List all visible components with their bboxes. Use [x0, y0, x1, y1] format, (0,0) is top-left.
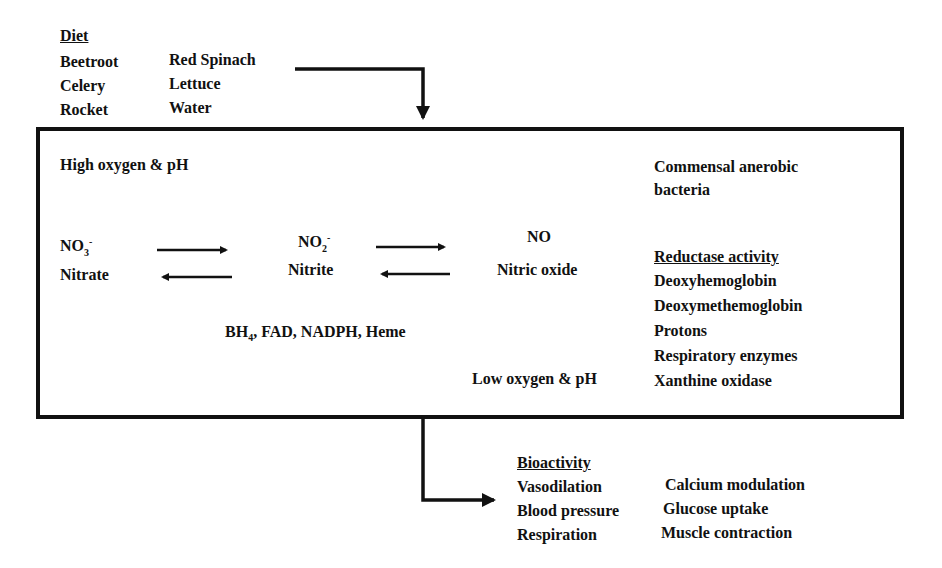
diet-arrow — [295, 69, 423, 118]
nitrate-formula: NO3- — [60, 237, 92, 258]
no-formula: NO — [527, 229, 551, 245]
reductase-item: Deoxymethemoglobin — [654, 298, 802, 314]
bioactivity-heading: Bioactivity — [517, 455, 591, 471]
bioactivity-item: Respiration — [517, 527, 597, 543]
diet-item: Red Spinach — [169, 52, 256, 68]
bacteria-label-line2: bacteria — [654, 182, 710, 198]
diet-item: Rocket — [60, 102, 108, 118]
reductase-item: Protons — [654, 323, 707, 339]
diet-item: Beetroot — [60, 54, 118, 70]
diet-heading: Diet — [60, 28, 88, 44]
bioactivity-arrow — [423, 417, 494, 500]
diet-item: Celery — [60, 78, 105, 94]
reductase-heading: Reductase activity — [654, 249, 779, 265]
reductase-item: Deoxyhemoglobin — [654, 273, 777, 289]
nitrate-label: Nitrate — [60, 267, 109, 283]
reductase-item: Respiratory enzymes — [654, 348, 798, 364]
cofactors-label: BH4, FAD, NADPH, Heme — [225, 324, 406, 343]
bioactivity-item: Vasodilation — [517, 479, 602, 495]
bioactivity-item: Glucose uptake — [663, 501, 768, 517]
bacteria-label-line1: Commensal anerobic — [654, 159, 798, 175]
bioactivity-item: Blood pressure — [517, 503, 619, 519]
diet-item: Water — [169, 100, 212, 116]
nitric-oxide-label: Nitric oxide — [497, 262, 577, 278]
reductase-item: Xanthine oxidase — [654, 373, 772, 389]
nitrite-label: Nitrite — [288, 262, 333, 278]
bioactivity-item: Calcium modulation — [665, 477, 805, 493]
high-oxygen-label: High oxygen & pH — [60, 157, 188, 173]
nitrite-formula: NO2- — [298, 233, 330, 254]
diet-item: Lettuce — [169, 76, 221, 92]
low-oxygen-label: Low oxygen & pH — [472, 371, 597, 387]
bioactivity-item: Muscle contraction — [661, 525, 792, 541]
